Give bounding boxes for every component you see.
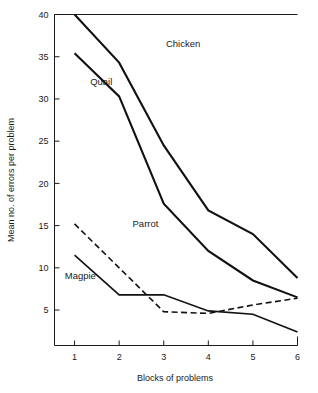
x-tick-label: 4 [206,352,211,362]
y-tick-label: 35 [38,52,48,62]
series-label-chicken: Chicken [166,38,200,49]
x-tick-label: 6 [295,352,300,362]
y-tick-label: 5 [43,305,48,315]
y-axis-label: Mean no. of errors per problem [6,118,16,242]
series-label-quail: Quail [90,76,112,87]
y-tick-label: 25 [38,136,48,146]
series-label-parrot: Parrot [133,218,159,229]
x-tick-label: 3 [161,352,166,362]
x-axis-label: Blocks of problems [137,373,214,383]
line-chart: 510152025303540 123456 ChickenQuailParro… [0,0,318,393]
series-label-magpie: Magpie [65,270,96,281]
y-tick-label: 10 [38,263,48,273]
y-tick-label: 20 [38,179,48,189]
x-tick-label: 2 [117,352,122,362]
x-tick-label: 1 [72,352,77,362]
x-tick-label: 5 [250,352,255,362]
y-tick-label: 15 [38,221,48,231]
y-tick-label: 30 [38,94,48,104]
y-tick-label: 40 [38,10,48,20]
